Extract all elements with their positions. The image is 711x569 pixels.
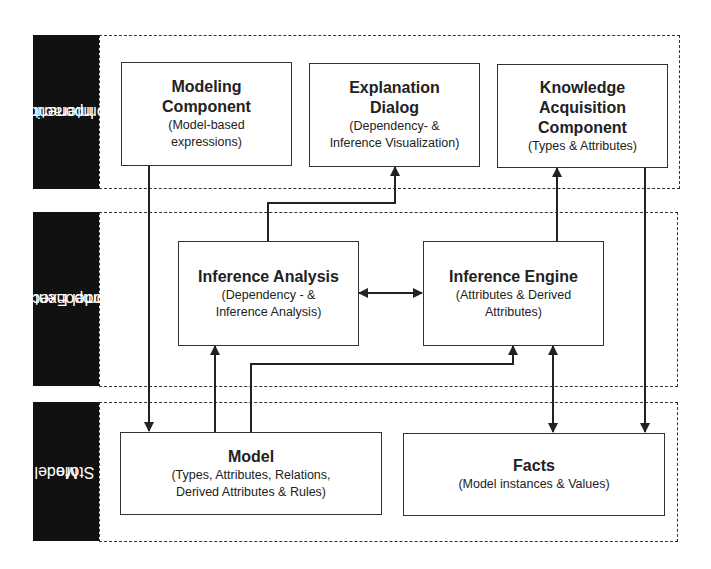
model-box: Model (Types, Attributes, Relations, Der… bbox=[120, 432, 382, 515]
explanation-dialog-box: Explanation Dialog (Dependency- & Infere… bbox=[309, 63, 480, 167]
box-subtitle: Derived Attributes & Rules) bbox=[176, 484, 326, 501]
box-subtitle: (Model instances & Values) bbox=[458, 476, 609, 493]
box-subtitle: (Model-based bbox=[168, 117, 244, 134]
box-title: Knowledge bbox=[540, 78, 625, 98]
box-subtitle: Inference Visualization) bbox=[330, 135, 460, 152]
inference-engine-box: Inference Engine (Attributes & Derived A… bbox=[423, 241, 604, 346]
box-subtitle: (Types, Attributes, Relations, bbox=[171, 467, 330, 484]
box-title: Modeling bbox=[171, 77, 241, 97]
box-title: Inference Engine bbox=[449, 267, 578, 287]
band-label-line: Component bbox=[34, 103, 117, 122]
box-subtitle: (Attributes & Derived bbox=[456, 287, 571, 304]
band-label-line: Store bbox=[54, 462, 98, 481]
box-title: Component bbox=[538, 118, 627, 138]
band-label-line: Component bbox=[16, 290, 134, 309]
knowledge-acquisition-box: Knowledge Acquisition Component (Types &… bbox=[497, 64, 668, 168]
box-subtitle: Inference Analysis) bbox=[216, 304, 322, 321]
inference-analysis-box: Inference Analysis (Dependency - & Infer… bbox=[178, 241, 359, 346]
box-title: Component bbox=[162, 97, 251, 117]
box-subtitle: (Dependency- & bbox=[349, 118, 439, 135]
box-title: Inference Analysis bbox=[198, 267, 339, 287]
box-subtitle: expressions) bbox=[171, 134, 242, 151]
box-subtitle: (Dependency - & bbox=[222, 287, 316, 304]
box-title: Dialog bbox=[370, 98, 419, 118]
facts-box: Facts (Model instances & Values) bbox=[403, 433, 665, 516]
store-band-label: ModelStore bbox=[33, 402, 99, 541]
box-subtitle: Attributes) bbox=[485, 304, 542, 321]
box-title: Explanation bbox=[349, 78, 440, 98]
modeling-component-box: Modeling Component (Model-based expressi… bbox=[121, 62, 292, 166]
execution-band-label: Model ExecutionComponent bbox=[33, 212, 99, 386]
box-subtitle: (Types & Attributes) bbox=[528, 138, 637, 155]
interaction-band-label: InteractionComponent bbox=[33, 35, 99, 189]
box-title: Facts bbox=[513, 456, 555, 476]
box-title: Acquisition bbox=[539, 98, 626, 118]
box-title: Model bbox=[228, 447, 274, 467]
